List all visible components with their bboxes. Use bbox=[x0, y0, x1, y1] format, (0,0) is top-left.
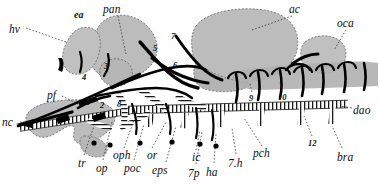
label-number-9: 9 bbox=[249, 94, 253, 103]
label-poc: poc bbox=[124, 163, 141, 175]
label-hv: hv bbox=[9, 24, 20, 36]
label-number-5: 5 bbox=[153, 44, 157, 53]
marker-hv-tip bbox=[58, 58, 64, 72]
label-bra: bra bbox=[337, 152, 353, 164]
node-7p bbox=[197, 141, 202, 146]
leader-7h bbox=[232, 128, 236, 154]
label-7h: 7.h bbox=[228, 158, 243, 170]
label-pch: pch bbox=[253, 148, 270, 160]
label-tr: tr bbox=[78, 158, 86, 170]
label-eps: eps bbox=[152, 165, 168, 177]
label-dao: dao bbox=[353, 105, 371, 117]
leader-bra bbox=[332, 126, 342, 148]
label-number-1: 1 bbox=[86, 98, 90, 107]
label-ha: ha bbox=[206, 167, 218, 179]
node-ha bbox=[213, 143, 218, 148]
leader-12 bbox=[304, 116, 312, 136]
label-number-4: 4 bbox=[82, 73, 86, 82]
node-poc bbox=[137, 140, 142, 145]
anatomy-illustration bbox=[0, 0, 379, 185]
desc-ic bbox=[196, 108, 198, 138]
node-eps bbox=[169, 139, 174, 144]
label-number-8: 8 bbox=[117, 100, 121, 109]
label-or: or bbox=[147, 150, 157, 162]
label-number-6: 6 bbox=[173, 61, 177, 70]
label-number-2: 2 bbox=[100, 101, 104, 110]
leader-or bbox=[152, 122, 166, 148]
label-oca: oca bbox=[337, 18, 354, 30]
label-ic: ic bbox=[192, 152, 201, 164]
figure-root: hveapanacocadaoncpftropophpocorepsic7pha… bbox=[0, 0, 379, 185]
label-pf: pf bbox=[47, 90, 56, 102]
node-tr bbox=[91, 140, 96, 145]
label-7p: 7p bbox=[188, 168, 200, 180]
aorta-stub-2 bbox=[183, 113, 186, 128]
label-ac: ac bbox=[289, 4, 300, 16]
aorta-stub-6 bbox=[331, 106, 333, 124]
desc-ha bbox=[212, 110, 214, 140]
label-ea: ea bbox=[74, 10, 84, 20]
label-oph: oph bbox=[113, 150, 131, 162]
aorta-stub-1 bbox=[149, 114, 152, 127]
label-number-10: 10 bbox=[278, 93, 287, 102]
aorta-stub-4 bbox=[260, 109, 262, 126]
aorta-stub-5 bbox=[300, 107, 302, 125]
label-pan: pan bbox=[103, 4, 121, 16]
node-op bbox=[107, 142, 112, 147]
label-op: op bbox=[96, 163, 108, 175]
label-nc: nc bbox=[2, 117, 13, 129]
label-number-12: 12 bbox=[308, 139, 317, 148]
label-number-7: 7 bbox=[171, 32, 175, 41]
leader-hv bbox=[26, 28, 66, 42]
aorta-stub-3 bbox=[220, 111, 222, 127]
label-number-3: 3 bbox=[104, 62, 108, 71]
